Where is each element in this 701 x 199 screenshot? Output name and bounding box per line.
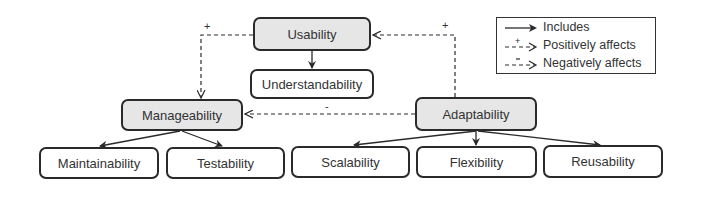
edge-manageability-maintainability <box>100 131 180 146</box>
node-usability: Usability <box>253 17 371 51</box>
node-flexibility: Flexibility <box>416 146 537 178</box>
node-label: Scalability <box>321 155 380 170</box>
node-adaptability: Adaptability <box>415 97 537 131</box>
edge-adaptability-usability <box>373 35 455 97</box>
node-label: Flexibility <box>450 155 503 170</box>
node-understandability: Understandability <box>250 69 374 99</box>
node-label: Understandability <box>262 77 362 92</box>
node-label: Maintainability <box>58 156 140 171</box>
node-label: Reusability <box>571 154 635 169</box>
dashed-minus-arrow-icon <box>503 55 541 72</box>
node-label: Adaptability <box>442 107 509 122</box>
legend-includes: Includes <box>497 19 655 36</box>
positive-mark: + <box>204 21 210 32</box>
positive-mark: + <box>442 20 448 31</box>
svg-text:+: + <box>515 37 520 46</box>
dashed-plus-arrow-icon: + <box>503 37 541 54</box>
negative-mark: - <box>325 101 329 112</box>
node-label: Usability <box>287 27 336 42</box>
legend-negative: Negatively affects <box>497 55 655 72</box>
node-maintainability: Maintainability <box>39 147 159 179</box>
edge-usability-manageability <box>201 35 253 98</box>
node-reusability: Reusability <box>543 145 663 178</box>
edge-adaptability-scalability <box>354 131 476 145</box>
node-label: Manageability <box>142 108 222 123</box>
legend: Includes + Positively affects Negatively… <box>496 17 656 74</box>
solid-arrow-icon <box>503 19 541 36</box>
quality-attribute-diagram: + + - Usability Understandability Manage… <box>0 0 701 199</box>
edge-adaptability-reusability <box>478 131 600 145</box>
node-testability: Testability <box>166 147 285 179</box>
node-scalability: Scalability <box>291 146 410 178</box>
node-manageability: Manageability <box>121 99 243 131</box>
legend-positive: + Positively affects <box>497 37 655 54</box>
edge-manageability-testability <box>182 131 222 146</box>
node-label: Testability <box>197 156 254 171</box>
